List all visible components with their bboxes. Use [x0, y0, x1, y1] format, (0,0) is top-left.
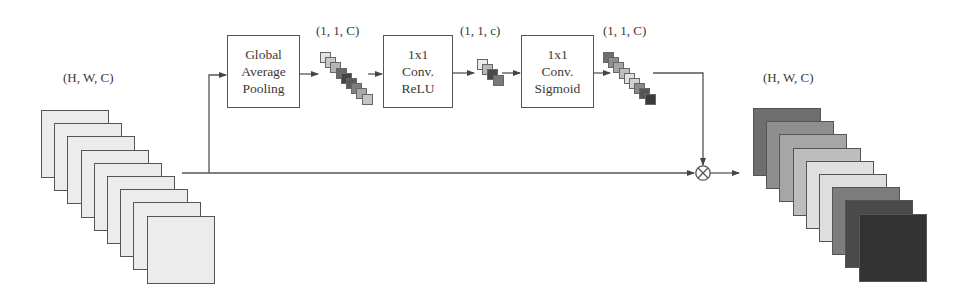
relu-output-shape-label: (1, 1, c) [460, 23, 500, 39]
sigmoid-line-3: Sigmoid [535, 80, 581, 97]
gap-output-shape-label: (1, 1, C) [316, 23, 359, 39]
channel-weight-cell [645, 94, 656, 105]
gap-line-2: Average [241, 63, 286, 80]
multiply-operator-icon [694, 164, 712, 182]
relu-line-1: 1x1 [408, 46, 428, 63]
sigmoid-output-shape-label: (1, 1, C) [603, 23, 646, 39]
relu-line-3: ReLU [402, 80, 435, 97]
channel-weight-cell [493, 75, 504, 86]
conv-relu-block: 1x1 Conv. ReLU [383, 35, 453, 108]
output-shape-label: (H, W, C) [763, 70, 814, 86]
sigmoid-line-1: 1x1 [547, 46, 567, 63]
relu-line-2: Conv. [402, 63, 434, 80]
channel-weight-cell [362, 94, 373, 105]
sigmoid-line-2: Conv. [542, 63, 574, 80]
gap-line-3: Pooling [242, 80, 284, 97]
conv-sigmoid-block: 1x1 Conv. Sigmoid [521, 35, 594, 108]
global-average-pooling-block: Global Average Pooling [227, 35, 300, 108]
output-channel-slice [859, 214, 927, 282]
gap-line-1: Global [245, 46, 282, 63]
